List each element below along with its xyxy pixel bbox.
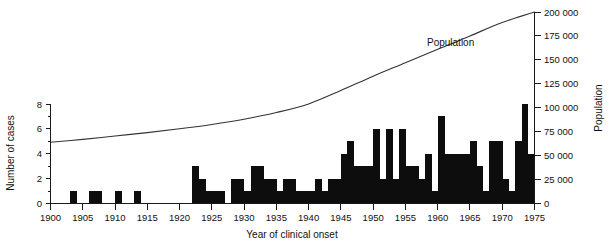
bar-1942 <box>322 191 329 203</box>
bar-1963 <box>457 154 464 204</box>
bar-1971 <box>509 191 516 203</box>
bottom-axis-ticks: 1900190519101915192019251930193519401945… <box>40 204 545 224</box>
bar-1959 <box>431 191 438 203</box>
bar-1940 <box>309 191 316 203</box>
bar-1972 <box>515 141 522 203</box>
right-tick-label-200000: 200 000 <box>544 7 578 18</box>
bar-1961 <box>444 154 451 204</box>
bar-1956 <box>412 166 419 203</box>
bar-1970 <box>502 179 509 204</box>
bottom-tick-label-1975: 1975 <box>524 212 545 223</box>
bar-1906 <box>89 191 96 203</box>
bar-1945 <box>341 154 348 204</box>
bar-1952 <box>386 129 393 204</box>
bar-1910 <box>115 191 122 203</box>
bottom-tick-label-1920: 1920 <box>169 212 190 223</box>
bar-1928 <box>231 179 238 204</box>
bottom-axis-title: Year of clinical onset <box>246 229 338 240</box>
right-tick-label-75000: 75 000 <box>544 126 573 137</box>
bottom-tick-label-1910: 1910 <box>104 212 125 223</box>
bar-1947 <box>354 166 361 203</box>
bottom-tick-label-1970: 1970 <box>492 212 513 223</box>
bar-1950 <box>373 129 380 204</box>
bottom-tick-label-1935: 1935 <box>266 212 287 223</box>
bar-1973 <box>522 104 529 204</box>
bar-1922 <box>192 166 199 203</box>
bottom-tick-label-1965: 1965 <box>459 212 480 223</box>
right-tick-label-125000: 125 000 <box>544 78 578 89</box>
right-tick-label-50000: 50 000 <box>544 150 573 161</box>
bar-1943 <box>328 179 335 204</box>
bar-1935 <box>276 191 283 203</box>
population-series <box>51 12 535 142</box>
bar-1925 <box>212 191 219 203</box>
population-line <box>51 12 535 142</box>
bottom-axis: 1900190519101915192019251930193519401945… <box>40 204 545 241</box>
bottom-tick-label-1945: 1945 <box>330 212 351 223</box>
cases-bar-series <box>70 104 535 204</box>
bar-1937 <box>289 179 296 204</box>
bar-1934 <box>270 179 277 204</box>
bar-1958 <box>425 154 432 204</box>
chart-annotations: Population <box>427 37 474 48</box>
bar-1938 <box>296 191 303 203</box>
left-tick-label-0: 0 <box>37 198 42 209</box>
bar-1968 <box>489 141 496 203</box>
bottom-tick-label-1950: 1950 <box>363 212 384 223</box>
left-axis-title: Number of cases <box>5 115 16 191</box>
left-tick-label-2: 2 <box>37 173 42 184</box>
right-axis: 025 00050 00075 000100 000125 000150 000… <box>535 7 605 210</box>
bottom-tick-label-1915: 1915 <box>137 212 158 223</box>
bottom-tick-label-1930: 1930 <box>234 212 255 223</box>
bar-1964 <box>464 154 471 204</box>
bar-1967 <box>483 191 490 203</box>
bar-1932 <box>257 166 264 203</box>
bar-1974 <box>528 154 535 204</box>
bottom-tick-label-1900: 1900 <box>40 212 61 223</box>
bar-1944 <box>334 179 341 204</box>
bottom-tick-label-1925: 1925 <box>201 212 222 223</box>
bar-1933 <box>263 179 270 204</box>
bar-1936 <box>283 179 290 204</box>
bar-1907 <box>96 191 103 203</box>
right-tick-label-25000: 25 000 <box>544 174 573 185</box>
chart-figure: 02468 Number of cases 025 00050 00075 00… <box>0 0 610 243</box>
bar-1926 <box>218 191 225 203</box>
right-tick-label-0: 0 <box>544 198 549 209</box>
right-axis-ticks: 025 00050 00075 000100 000125 000150 000… <box>535 7 579 210</box>
bottom-tick-label-1960: 1960 <box>427 212 448 223</box>
bar-1923 <box>199 179 206 204</box>
right-tick-label-150000: 150 000 <box>544 54 578 65</box>
right-tick-label-100000: 100 000 <box>544 102 578 113</box>
bar-1955 <box>405 166 412 203</box>
bar-1913 <box>134 191 141 203</box>
bar-1953 <box>393 179 400 204</box>
bar-1931 <box>251 166 258 203</box>
left-tick-label-4: 4 <box>37 148 42 159</box>
bottom-tick-label-1905: 1905 <box>72 212 93 223</box>
bar-1949 <box>367 166 374 203</box>
bottom-tick-label-1955: 1955 <box>395 212 416 223</box>
left-axis-ticks: 02468 <box>37 99 51 210</box>
bar-1903 <box>70 191 77 203</box>
bar-1954 <box>399 129 406 204</box>
bottom-tick-label-1940: 1940 <box>298 212 319 223</box>
bar-1957 <box>418 179 425 204</box>
bar-1965 <box>470 141 477 203</box>
right-axis-title: Population <box>593 84 604 131</box>
bar-1929 <box>238 179 245 204</box>
bar-1960 <box>438 116 445 203</box>
bar-1969 <box>496 141 503 203</box>
bar-1951 <box>380 179 387 204</box>
bar-1939 <box>302 191 309 203</box>
bar-1948 <box>360 166 367 203</box>
left-tick-label-6: 6 <box>37 123 42 134</box>
right-tick-label-175000: 175 000 <box>544 30 578 41</box>
bar-1962 <box>451 154 458 204</box>
chart-canvas: 02468 Number of cases 025 00050 00075 00… <box>0 0 610 243</box>
population-series-label: Population <box>427 37 474 48</box>
left-tick-label-8: 8 <box>37 99 42 110</box>
bar-1966 <box>476 166 483 203</box>
bar-1941 <box>315 179 322 204</box>
left-axis: 02468 Number of cases <box>5 99 51 210</box>
